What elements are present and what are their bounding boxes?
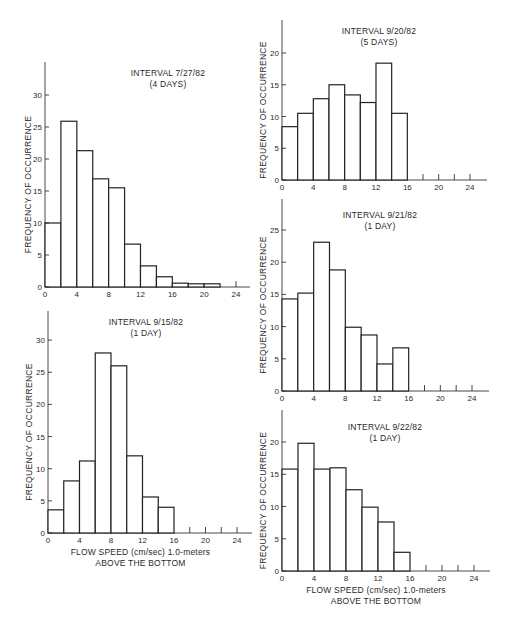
histogram-bar [346, 490, 362, 571]
x-axis-label: ABOVE THE BOTTOM [95, 558, 185, 568]
x-tick-label: 24 [470, 574, 479, 583]
histogram-panel-p-9-20-82: 0481216202405101520INTERVAL 9/20/82(5 DA… [258, 20, 487, 192]
y-tick-label: 10 [36, 465, 45, 474]
histogram-bar [362, 507, 378, 571]
y-axis-label: FREQUENCY OF OCCURRENCE [258, 236, 268, 374]
x-tick-label: 0 [46, 536, 51, 545]
histogram-bar [345, 95, 361, 180]
histogram-bar [393, 348, 409, 391]
y-tick-label: 10 [270, 503, 279, 512]
x-tick-label: 8 [344, 574, 349, 583]
y-tick-label: 20 [270, 258, 279, 267]
y-tick-label: 0 [275, 176, 280, 185]
histogram-bar [378, 522, 394, 571]
histogram-bar [314, 242, 330, 391]
y-tick-label: 20 [270, 49, 279, 58]
y-tick-label: 10 [33, 219, 42, 228]
x-tick-label: 24 [233, 536, 242, 545]
y-axis-label: FREQUENCY OF OCCURRENCE [24, 363, 34, 501]
y-tick-label: 5 [38, 251, 43, 260]
x-tick-label: 24 [232, 290, 241, 299]
y-tick-label: 5 [275, 535, 280, 544]
y-tick-label: 10 [270, 323, 279, 332]
y-tick-label: 0 [38, 283, 43, 292]
x-tick-label: 16 [170, 536, 179, 545]
histogram-bar [95, 353, 111, 533]
histogram-bar [141, 266, 157, 287]
histogram-bar [329, 85, 345, 180]
histogram-bar [143, 497, 159, 533]
x-tick-label: 20 [436, 394, 445, 403]
x-tick-label: 8 [343, 394, 348, 403]
histogram-bar [156, 277, 172, 287]
x-tick-label: 20 [200, 290, 209, 299]
x-tick-label: 4 [311, 394, 316, 403]
panel-title: INTERVAL 9/20/82 [342, 26, 416, 36]
histogram-bar [204, 284, 220, 287]
x-tick-label: 20 [201, 536, 210, 545]
histogram-bar [111, 366, 127, 533]
panel-subtitle: (1 DAY) [370, 433, 401, 443]
panel-subtitle: (1 DAY) [131, 328, 162, 338]
y-tick-label: 0 [275, 387, 280, 396]
x-tick-label: 16 [403, 183, 412, 192]
panel-title: INTERVAL 9/15/82 [109, 317, 183, 327]
histogram-bar [314, 469, 330, 571]
y-tick-label: 25 [36, 368, 45, 377]
histogram-panel-p-9-15-82: 04812162024051015202530INTERVAL 9/15/82(… [24, 311, 252, 568]
x-tick-label: 20 [434, 183, 443, 192]
x-tick-label: 8 [106, 290, 111, 299]
histogram-bar [392, 113, 408, 180]
histogram-bar [298, 113, 314, 180]
y-tick-label: 15 [270, 81, 279, 90]
y-tick-label: 20 [36, 400, 45, 409]
x-tick-label: 0 [43, 290, 48, 299]
histogram-bar [188, 284, 204, 287]
x-axis-label: FLOW SPEED (cm/sec) 1.0-meters [306, 585, 446, 595]
histogram-bar [376, 63, 392, 180]
panel-title: INTERVAL 9/21/82 [343, 210, 417, 220]
y-tick-label: 15 [33, 187, 42, 196]
y-tick-label: 30 [36, 336, 45, 345]
histogram-bar [172, 283, 188, 287]
x-tick-label: 8 [342, 183, 347, 192]
histogram-bar [93, 179, 109, 287]
histogram-panel-p-9-21-82: 048121620240510152025INTERVAL 9/21/82(1 … [258, 199, 489, 403]
x-tick-label: 20 [438, 574, 447, 583]
x-tick-label: 24 [466, 183, 475, 192]
histogram-bar [361, 335, 377, 391]
histogram-bar [125, 244, 141, 287]
x-tick-label: 12 [372, 183, 381, 192]
histogram-bar [109, 188, 125, 287]
histogram-figure: 04812162024051015202530INTERVAL 7/27/82(… [0, 0, 509, 617]
panel-title: INTERVAL 9/22/82 [348, 422, 422, 432]
x-tick-label: 0 [280, 183, 285, 192]
x-tick-label: 8 [109, 536, 114, 545]
panel-subtitle: (5 DAYS) [361, 37, 398, 47]
histogram-bar [77, 151, 93, 287]
x-tick-label: 12 [374, 574, 383, 583]
histogram-bar [330, 468, 346, 571]
x-tick-label: 4 [77, 536, 82, 545]
x-axis-label: ABOVE THE BOTTOM [331, 596, 421, 606]
y-tick-label: 0 [41, 529, 46, 538]
panel-subtitle: (1 DAY) [365, 221, 396, 231]
histogram-bar [282, 127, 298, 180]
x-tick-label: 16 [168, 290, 177, 299]
histogram-panel-p-7-27-82: 04812162024051015202530INTERVAL 7/27/82(… [23, 62, 250, 299]
histogram-bar [345, 327, 361, 391]
histogram-bar [64, 481, 80, 533]
y-tick-label: 15 [270, 290, 279, 299]
histogram-bar [377, 364, 393, 391]
y-tick-label: 5 [41, 497, 46, 506]
x-tick-label: 16 [404, 394, 413, 403]
histogram-bar [80, 461, 96, 533]
y-tick-label: 20 [270, 438, 279, 447]
histogram-bar [298, 443, 314, 571]
y-axis-label: FREQUENCY OF OCCURRENCE [258, 41, 268, 179]
histogram-bar [158, 507, 174, 533]
histogram-panel-p-9-22-82: 0481216202405101520INTERVAL 9/22/82(1 DA… [258, 410, 490, 606]
histogram-bar [360, 103, 376, 180]
y-tick-label: 0 [275, 567, 280, 576]
histogram-bar [313, 99, 329, 180]
